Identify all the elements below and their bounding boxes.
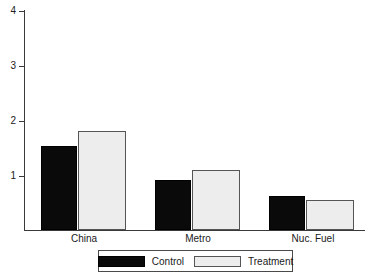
y-tick-mark-3: [19, 66, 25, 67]
legend-swatch-treatment-icon: [194, 256, 241, 267]
x-label-china: China: [44, 233, 124, 245]
y-tick-label-4: 4: [2, 6, 16, 16]
x-label-metro: Metro: [158, 233, 238, 245]
bar-china-treatment: [78, 131, 126, 230]
y-tick-mark-4: [19, 11, 25, 12]
x-label-nuc-fuel: Nuc. Fuel: [272, 233, 354, 245]
y-tick-mark-1: [19, 176, 25, 177]
y-tick-label-1: 1: [2, 171, 16, 181]
legend-entry-treatment: Treatment: [194, 256, 293, 267]
legend-label-control: Control: [152, 256, 184, 267]
bar-nucfuel-treatment: [306, 200, 354, 230]
y-tick-label-2: 2: [2, 116, 16, 126]
bar-china-control: [41, 146, 77, 230]
bar-chart: 4 3 2 1 China Metro Nuc. Fuel Control Tr…: [0, 0, 377, 278]
plot-area: 4 3 2 1 China Metro Nuc. Fuel: [0, 0, 377, 278]
legend-label-treatment: Treatment: [248, 256, 293, 267]
legend-entry-control: Control: [98, 256, 184, 267]
x-axis-line: [24, 230, 365, 231]
bar-metro-treatment: [192, 170, 240, 230]
y-tick-mark-2: [19, 121, 25, 122]
legend-swatch-control-icon: [98, 256, 145, 267]
y-tick-label-3: 3: [2, 61, 16, 71]
chart-legend: Control Treatment: [98, 250, 293, 272]
bar-metro-control: [155, 180, 191, 230]
bar-nucfuel-control: [269, 196, 305, 230]
